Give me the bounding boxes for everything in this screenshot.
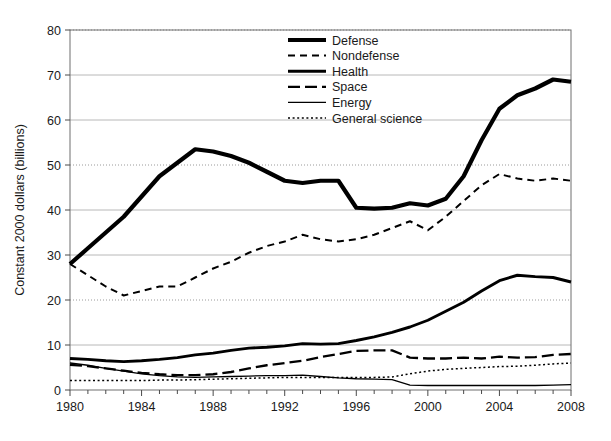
y-axis-label-70: 70 xyxy=(47,69,61,83)
legend-label-defense: Defense xyxy=(332,34,379,48)
axis-tickmarks xyxy=(65,30,571,396)
x-axis-label-1996: 1996 xyxy=(342,400,370,414)
x-axis-tick-labels: 19801984198819921996200020042008 xyxy=(56,400,585,414)
legend-label-health: Health xyxy=(332,65,368,79)
y-axis-title: Constant 2000 dollars (billions) xyxy=(13,124,27,296)
y-axis-label-80: 80 xyxy=(47,24,61,38)
series-line-space xyxy=(70,350,571,375)
data-series xyxy=(70,80,571,386)
series-line-health xyxy=(70,275,571,361)
x-axis-label-1992: 1992 xyxy=(271,400,299,414)
y-axis-label-30: 30 xyxy=(47,249,61,263)
chart-container: 01020304050607080 1980198419881992199620… xyxy=(0,0,611,441)
y-axis-title-text: Constant 2000 dollars (billions) xyxy=(13,124,27,296)
series-line-defense xyxy=(70,80,571,265)
y-axis-label-60: 60 xyxy=(47,114,61,128)
series-line-general-science xyxy=(70,363,571,381)
x-axis-label-2000: 2000 xyxy=(414,400,442,414)
legend-label-space: Space xyxy=(332,80,367,94)
gridlines xyxy=(70,30,571,345)
x-axis-label-1984: 1984 xyxy=(128,400,156,414)
line-chart: 01020304050607080 1980198419881992199620… xyxy=(0,0,611,441)
x-axis-label-2004: 2004 xyxy=(486,400,514,414)
legend-label-energy: Energy xyxy=(332,96,372,110)
x-axis-label-1980: 1980 xyxy=(56,400,84,414)
y-axis-label-20: 20 xyxy=(47,294,61,308)
y-axis-label-10: 10 xyxy=(47,339,61,353)
y-axis-label-50: 50 xyxy=(47,159,61,173)
x-axis-label-1988: 1988 xyxy=(199,400,227,414)
legend-label-general-science: General science xyxy=(332,112,422,126)
x-axis-label-2008: 2008 xyxy=(557,400,585,414)
chart-legend: DefenseNondefenseHealthSpaceEnergyGenera… xyxy=(288,34,422,126)
y-axis-label-0: 0 xyxy=(54,384,61,398)
y-axis-tick-labels: 01020304050607080 xyxy=(47,24,61,398)
y-axis-label-40: 40 xyxy=(47,204,61,218)
legend-label-nondefense: Nondefense xyxy=(332,49,399,63)
